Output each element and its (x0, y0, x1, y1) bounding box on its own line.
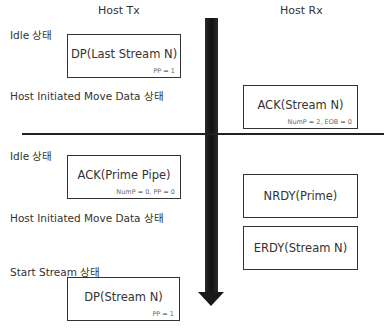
state-label-move-data-1: Host Initiated Move Data 상태 (10, 88, 164, 103)
state-label-move-data-2: Host Initiated Move Data 상태 (10, 210, 164, 225)
packet-fields: NumP = 0, PP = 0 (116, 188, 175, 196)
time-arrow-head-icon (198, 292, 224, 306)
packet-fields: PP = 1 (152, 310, 174, 318)
packet-ack-prime-pipe: ACK(Prime Pipe) NumP = 0, PP = 0 (67, 155, 181, 199)
host-rx-header: Host Rx (280, 4, 323, 17)
packet-label: DP(Stream N) (68, 290, 179, 304)
state-label-idle-2: Idle 상태 (10, 148, 52, 163)
packet-fields: NumP = 2, EOB = 0 (288, 118, 352, 126)
packet-erdy-stream: ERDY(Stream N) (243, 226, 358, 270)
host-tx-header: Host Tx (98, 4, 140, 17)
state-label-idle-1: Idle 상태 (10, 27, 52, 42)
packet-ack-stream: ACK(Stream N) NumP = 2, EOB = 0 (243, 85, 358, 129)
packet-fields: PP = 1 (153, 67, 175, 75)
packet-label: ACK(Stream N) (244, 98, 357, 112)
packet-nrdy-prime: NRDY(Prime) (243, 174, 358, 218)
packet-label: DP(Last Stream N) (68, 47, 180, 61)
packet-dp-last-stream: DP(Last Stream N) PP = 1 (67, 34, 181, 78)
phase-divider-line (22, 133, 384, 135)
time-arrow-shaft (205, 18, 218, 294)
packet-label: NRDY(Prime) (244, 189, 357, 203)
packet-dp-stream: DP(Stream N) PP = 1 (67, 277, 180, 321)
packet-label: ACK(Prime Pipe) (68, 168, 180, 182)
packet-label: ERDY(Stream N) (244, 241, 357, 255)
